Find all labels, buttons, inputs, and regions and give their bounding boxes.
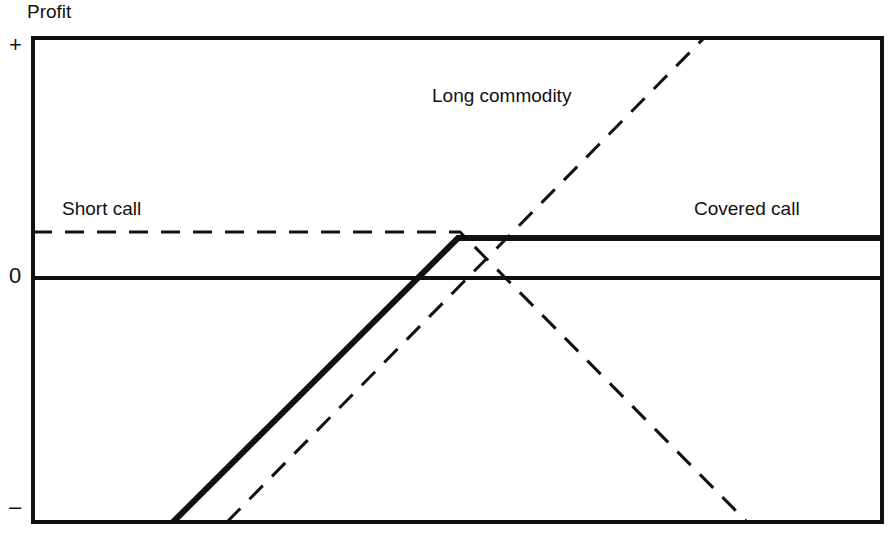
y-axis-title: Profit <box>27 2 71 21</box>
y-axis-tick-zero: 0 <box>9 265 21 287</box>
y-axis-tick-positive: + <box>9 34 22 56</box>
y-axis-tick-negative: – <box>9 496 21 518</box>
payoff-diagram-svg <box>0 0 892 537</box>
series-label-short-call: Short call <box>62 199 141 218</box>
series-label-long-commodity: Long commodity <box>432 86 571 105</box>
payoff-chart: Profit + 0 – Short call Long commodity C… <box>0 0 892 537</box>
series-label-covered-call: Covered call <box>694 199 800 218</box>
